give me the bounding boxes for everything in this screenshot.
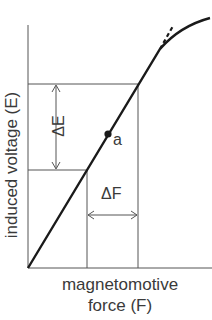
x-axis-label-line2: force (F): [40, 296, 200, 316]
delta-e-label: ΔE: [50, 115, 68, 136]
magnetization-curve-diagram: induced voltage (E) magnetomotive force …: [0, 0, 212, 320]
delta-f-label: ΔF: [101, 185, 121, 203]
diagram-canvas: [0, 0, 212, 320]
point-a-marker: [104, 130, 111, 137]
point-a-label: a: [113, 131, 122, 149]
x-axis-label-line1: magnetomotive: [40, 275, 200, 295]
y-axis-label: induced voltage (E): [2, 85, 22, 245]
